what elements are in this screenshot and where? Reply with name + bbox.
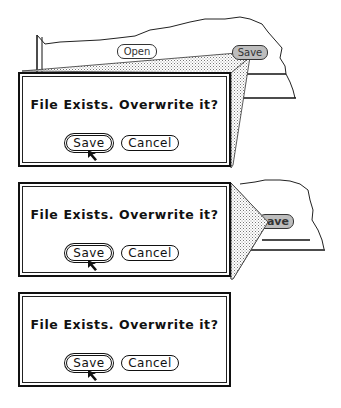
cancel-button[interactable]: Cancel bbox=[121, 245, 179, 261]
overwrite-dialog-2: File Exists. Overwrite it? Save Cancel bbox=[18, 182, 231, 277]
cancel-button[interactable]: Cancel bbox=[121, 355, 179, 371]
arrow-cursor-icon bbox=[87, 149, 101, 163]
save-button-background-partial[interactable]: ave bbox=[258, 214, 294, 229]
dialog-message: File Exists. Overwrite it? bbox=[20, 207, 229, 222]
dialog-message: File Exists. Overwrite it? bbox=[20, 97, 229, 112]
overwrite-dialog-3: File Exists. Overwrite it? Save Cancel bbox=[18, 292, 231, 387]
cancel-button[interactable]: Cancel bbox=[121, 135, 179, 151]
arrow-cursor-icon bbox=[87, 259, 101, 273]
dialog-message: File Exists. Overwrite it? bbox=[20, 317, 229, 332]
arrow-cursor-icon bbox=[87, 369, 101, 383]
open-button-background[interactable]: Open bbox=[117, 44, 157, 59]
background-window-2 bbox=[231, 180, 325, 279]
overwrite-dialog-1: File Exists. Overwrite it? Save Cancel bbox=[18, 72, 231, 167]
save-button-background-highlighted[interactable]: Save bbox=[232, 45, 268, 60]
